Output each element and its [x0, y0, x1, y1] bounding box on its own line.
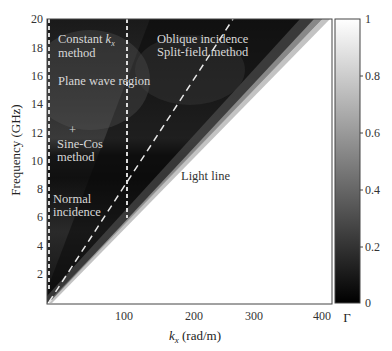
cbar-tick-0: 0	[365, 296, 371, 310]
x-tick-400: 400	[313, 309, 331, 323]
x-tick-300: 300	[245, 309, 263, 323]
y-tick-20: 20	[31, 12, 43, 26]
x-axis: 100 200 300 400 kx (rad/m)	[115, 309, 331, 345]
y-tick-2: 2	[37, 267, 43, 281]
x-tick-100: 100	[115, 309, 133, 323]
annotation-normal: Normal	[53, 192, 92, 206]
annotation-split-field: Split-field method	[157, 45, 249, 59]
heatmap-chart: Constant kx method Plane wave region + S…	[0, 0, 392, 351]
annotation-light-line: Light line	[181, 169, 230, 183]
annotation-sine-cos: Sine-Cos	[57, 137, 103, 151]
annotation-plane-wave-region: Plane wave region	[58, 74, 151, 88]
y-tick-12: 12	[31, 126, 43, 140]
colorbar-gradient	[335, 19, 360, 303]
marker-plus: +	[69, 123, 76, 137]
y-tick-16: 16	[31, 69, 43, 83]
y-axis: 20 18 16 14 12 10 8 6 4 2 Frequency (GHz…	[8, 12, 43, 281]
x-tick-200: 200	[185, 309, 203, 323]
y-tick-18: 18	[31, 41, 43, 55]
y-tick-8: 8	[37, 182, 43, 196]
x-axis-label: kx (rad/m)	[169, 328, 221, 345]
cbar-tick-0.2: 0.2	[365, 240, 380, 254]
cbar-tick-0.8: 0.8	[365, 69, 380, 83]
y-tick-4: 4	[37, 239, 43, 253]
annotation-oblique-incidence: Oblique incidence	[157, 32, 249, 46]
y-axis-label: Frequency (GHz)	[8, 104, 23, 195]
y-tick-6: 6	[37, 210, 43, 224]
colorbar-label: Γ	[343, 310, 351, 325]
y-tick-14: 14	[31, 97, 43, 111]
annotation-sine-cos-method: method	[57, 150, 95, 164]
colorbar: 1 0.8 0.6 0.4 0.2 0 Γ	[335, 12, 380, 325]
cbar-tick-0.6: 0.6	[365, 126, 380, 140]
annotation-constant-kx-method: method	[58, 46, 96, 60]
y-tick-10: 10	[31, 154, 43, 168]
annotation-normal-incidence: incidence	[53, 205, 101, 219]
cbar-tick-0.4: 0.4	[365, 183, 380, 197]
cbar-tick-1: 1	[365, 12, 371, 26]
